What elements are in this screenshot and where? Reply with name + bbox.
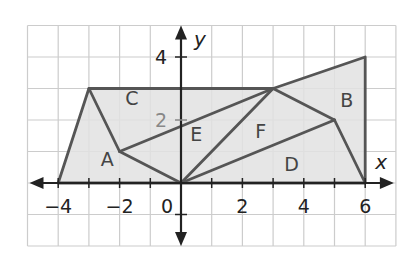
region-label-e: E xyxy=(190,123,202,145)
y-axis-label: y xyxy=(193,27,207,51)
region-label-d: D xyxy=(284,153,299,175)
region-label-c: C xyxy=(125,87,138,109)
x-axis-label: x xyxy=(374,150,387,174)
x-tick-label: 4 xyxy=(298,195,310,217)
coordinate-plane: −4−2024642yxABCDEF xyxy=(0,0,415,262)
x-tick-label: 0 xyxy=(161,195,173,217)
x-tick-label: 2 xyxy=(236,195,248,217)
y-axis-up-arrow-icon xyxy=(175,26,187,40)
x-axis-right-arrow-icon xyxy=(380,177,394,189)
region-label-f: F xyxy=(255,120,266,142)
region-label-b: B xyxy=(340,89,353,111)
y-axis-down-arrow-icon xyxy=(175,232,187,246)
region-label-a: A xyxy=(101,148,114,170)
x-tick-label: 6 xyxy=(359,195,371,217)
y-tick-label: 4 xyxy=(155,46,167,68)
x-tick-label: −2 xyxy=(106,195,134,217)
x-tick-label: −4 xyxy=(44,195,72,217)
y-tick-label: 2 xyxy=(155,109,167,131)
x-axis-left-arrow-icon xyxy=(30,177,44,189)
